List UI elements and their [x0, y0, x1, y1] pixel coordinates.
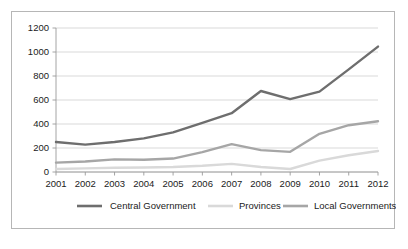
x-tick-label: 2006	[192, 178, 213, 189]
x-tick-label: 2007	[221, 178, 242, 189]
y-tick-label: 400	[33, 118, 49, 129]
x-tick-label: 2003	[104, 178, 125, 189]
y-tick-label: 200	[33, 142, 49, 153]
y-tick-label: 1000	[28, 46, 49, 57]
plot-area: 020040060080010001200 200120022003200420…	[12, 12, 396, 230]
data-series-lines	[56, 47, 378, 169]
y-tick-label: 600	[33, 94, 49, 105]
x-tick-label: 2008	[250, 178, 271, 189]
y-tick-label: 0	[44, 166, 49, 177]
x-tick-label: 2012	[367, 178, 388, 189]
x-axis-tick-labels: 2001200220032004200520062007200820092010…	[45, 178, 388, 189]
x-tick-label: 2004	[133, 178, 154, 189]
x-tick-label: 2002	[75, 178, 96, 189]
x-tick-label: 2011	[339, 178, 359, 189]
gridlines	[56, 28, 378, 172]
x-tick-label: 2001	[45, 178, 66, 189]
legend-label: Central Government	[110, 200, 196, 211]
x-tick-label: 2009	[280, 178, 301, 189]
x-tick-label: 2005	[163, 178, 184, 189]
legend-label: Local Governments	[314, 200, 396, 211]
y-tick-label: 800	[33, 70, 49, 81]
y-tick-label: 1200	[28, 22, 49, 33]
legend-label: Provinces	[239, 200, 281, 211]
y-axis-tick-labels: 020040060080010001200	[28, 22, 49, 177]
x-tick-label: 2010	[309, 178, 330, 189]
chart-figure: 020040060080010001200 200120022003200420…	[11, 11, 395, 229]
line-chart-svg: 020040060080010001200 200120022003200420…	[12, 12, 396, 230]
chart-legend: Central GovernmentProvincesLocal Governm…	[77, 200, 396, 211]
axes	[53, 28, 379, 176]
